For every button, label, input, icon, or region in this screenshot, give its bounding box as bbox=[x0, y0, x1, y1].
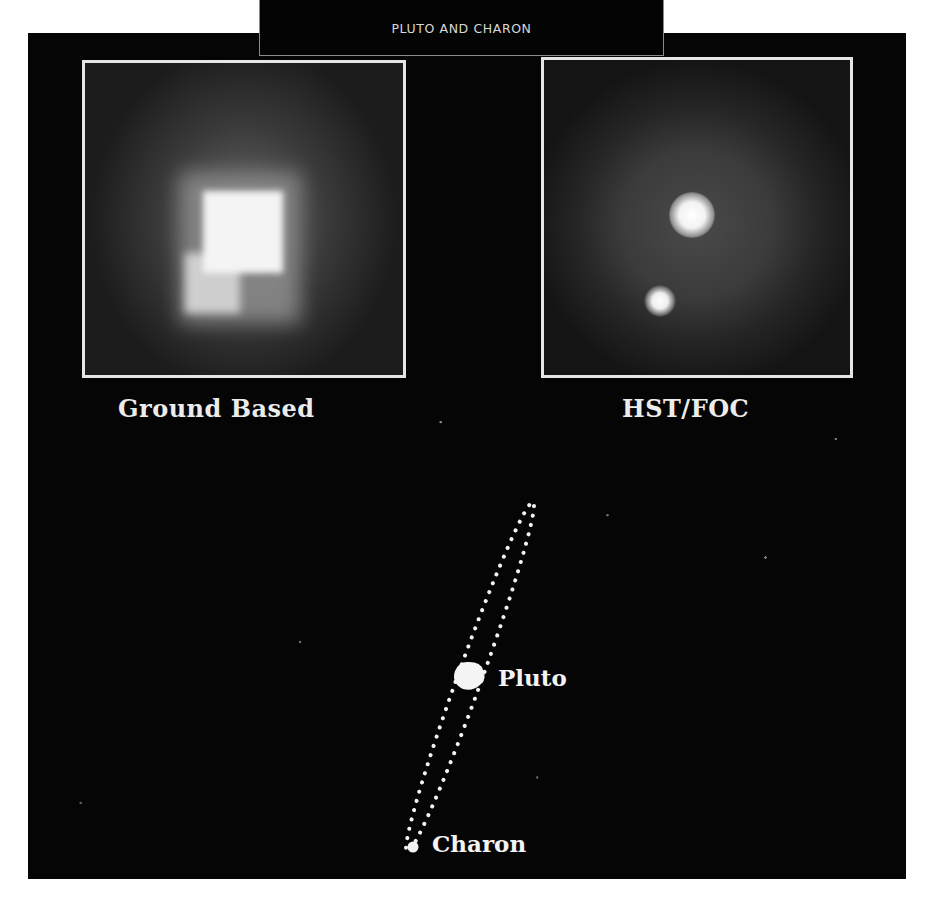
ground-based-image bbox=[82, 60, 406, 378]
title-tab: PLUTO AND CHARON bbox=[259, 0, 664, 56]
hst-foc-caption: HST/FOC bbox=[622, 394, 749, 423]
pluto-blob bbox=[669, 192, 715, 238]
blur-core bbox=[203, 191, 283, 273]
hst-foc-image bbox=[541, 57, 853, 378]
pluto-label: Pluto bbox=[498, 664, 567, 691]
charon-label: Charon bbox=[432, 830, 526, 857]
ground-based-caption: Ground Based bbox=[118, 394, 315, 423]
charon-blob bbox=[644, 285, 676, 317]
page-title: PLUTO AND CHARON bbox=[391, 21, 531, 36]
